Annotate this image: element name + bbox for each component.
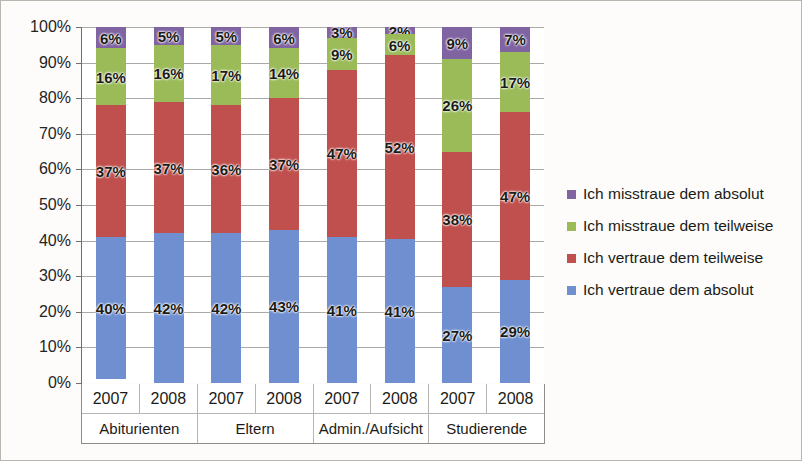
y-axis-tick-mark bbox=[76, 347, 82, 348]
bar-segment-label: 42% bbox=[154, 300, 184, 317]
gridline bbox=[82, 312, 544, 313]
gridline bbox=[82, 347, 544, 348]
bar-segment[interactable]: 37% bbox=[154, 102, 184, 234]
bar-column[interactable]: 2%6%52%41% bbox=[385, 27, 415, 383]
y-axis-tick-label: 70% bbox=[39, 125, 71, 143]
bar-segment[interactable]: 17% bbox=[500, 52, 530, 113]
chart-frame: 100%90%80%70%60%50%40%30%20%10%0% 6%16%3… bbox=[0, 0, 802, 461]
bar-segment[interactable]: 27% bbox=[442, 287, 472, 383]
y-axis-tick-mark bbox=[76, 27, 82, 28]
bar-column[interactable]: 6%16%37%40% bbox=[96, 27, 126, 383]
bar-segment[interactable]: 9% bbox=[442, 27, 472, 59]
bar-segment-label: 9% bbox=[447, 35, 469, 52]
legend-item[interactable]: Ich misstraue dem absolut bbox=[567, 185, 797, 203]
legend-color-swatch bbox=[567, 254, 576, 263]
bar-column[interactable]: 6%14%37%43% bbox=[269, 27, 299, 383]
y-axis-tick-label: 100% bbox=[30, 18, 71, 36]
axis-year-cell: 2007 bbox=[82, 384, 140, 413]
legend-item[interactable]: Ich vertraue dem teilweise bbox=[567, 249, 797, 267]
axis-year-cell: 2007 bbox=[198, 384, 256, 413]
bar-segment[interactable]: 17% bbox=[211, 45, 241, 106]
axis-year-cell: 2007 bbox=[429, 384, 487, 413]
y-axis-tick-mark bbox=[76, 241, 82, 242]
gridline bbox=[82, 205, 544, 206]
bar-segment[interactable]: 37% bbox=[96, 105, 126, 237]
bar-segment[interactable]: 9% bbox=[327, 38, 357, 70]
bar-segment[interactable]: 14% bbox=[269, 48, 299, 98]
bar-segment[interactable]: 43% bbox=[269, 230, 299, 383]
bar-segment[interactable]: 16% bbox=[154, 45, 184, 102]
bar-segment[interactable]: 6% bbox=[96, 27, 126, 48]
bar-column[interactable]: 9%26%38%27% bbox=[442, 27, 472, 383]
bar-segment-label: 14% bbox=[269, 65, 299, 82]
bar-segment-label: 9% bbox=[331, 45, 353, 62]
category-axis-table: 20072008200720082007200820072008 Abituri… bbox=[81, 384, 545, 444]
y-axis-tick-label: 80% bbox=[39, 89, 71, 107]
bar-segment[interactable]: 7% bbox=[500, 27, 530, 52]
bar-segment[interactable]: 42% bbox=[211, 233, 241, 383]
bar-segment-label: 37% bbox=[269, 156, 299, 173]
bar-segment-label: 6% bbox=[100, 29, 122, 46]
axis-group-cell: Abiturienten bbox=[82, 414, 198, 443]
bar-segment-label: 41% bbox=[327, 301, 357, 318]
bar-segment[interactable]: 41% bbox=[327, 237, 357, 383]
gridline bbox=[82, 241, 544, 242]
legend-color-swatch bbox=[567, 222, 576, 231]
axis-year-cell: 2008 bbox=[487, 384, 544, 413]
legend-label: Ich misstraue dem teilweise bbox=[583, 217, 773, 235]
bar-segment[interactable]: 37% bbox=[269, 98, 299, 230]
y-axis-tick-mark bbox=[76, 63, 82, 64]
y-axis-tick-mark bbox=[76, 276, 82, 277]
bar-segment[interactable]: 5% bbox=[211, 27, 241, 45]
bar-segment[interactable]: 36% bbox=[211, 105, 241, 233]
bar-column[interactable]: 7%17%47%29% bbox=[500, 27, 530, 383]
bar-segment[interactable]: 5% bbox=[154, 27, 184, 45]
bar-segment-label: 41% bbox=[385, 302, 415, 319]
bar-segment-label: 5% bbox=[216, 27, 238, 44]
y-axis-tick-mark bbox=[76, 312, 82, 313]
bar-segment-label: 47% bbox=[500, 188, 530, 205]
legend-label: Ich misstraue dem absolut bbox=[583, 185, 764, 203]
bar-segment[interactable]: 52% bbox=[385, 55, 415, 238]
bar-segment-label: 16% bbox=[154, 65, 184, 82]
bar-column[interactable]: 5%17%36%42% bbox=[211, 27, 241, 383]
axis-year-cell: 2008 bbox=[371, 384, 429, 413]
bar-segment[interactable]: 6% bbox=[385, 34, 415, 55]
bar-segment[interactable]: 38% bbox=[442, 152, 472, 287]
bar-segment[interactable]: 42% bbox=[154, 233, 184, 383]
bar-segment[interactable]: 47% bbox=[327, 70, 357, 237]
bar-segment[interactable]: 47% bbox=[500, 112, 530, 279]
gridline bbox=[82, 98, 544, 99]
bar-segment[interactable]: 16% bbox=[96, 48, 126, 105]
bar-segment[interactable]: 2% bbox=[385, 27, 415, 34]
bar-column[interactable]: 5%16%37%42% bbox=[154, 27, 184, 383]
bar-segment[interactable]: 41% bbox=[385, 239, 415, 384]
y-axis-tick-mark bbox=[76, 205, 82, 206]
legend-label: Ich vertraue dem teilweise bbox=[583, 249, 763, 267]
bar-segment-label: 52% bbox=[385, 138, 415, 155]
legend-item[interactable]: Ich vertraue dem absolut bbox=[567, 281, 797, 299]
bar-segment-label: 37% bbox=[96, 163, 126, 180]
bar-segment[interactable]: 26% bbox=[442, 59, 472, 152]
bar-segment-label: 29% bbox=[500, 323, 530, 340]
bar-segment-label: 7% bbox=[504, 31, 526, 48]
y-axis-tick-label: 60% bbox=[39, 160, 71, 178]
gridline bbox=[82, 27, 544, 28]
bar-segment-label: 26% bbox=[442, 97, 472, 114]
legend-item[interactable]: Ich misstraue dem teilweise bbox=[567, 217, 797, 235]
bar-segment[interactable]: 40% bbox=[96, 237, 126, 379]
bar-segment-label: 43% bbox=[269, 298, 299, 315]
y-axis-tick-label: 90% bbox=[39, 54, 71, 72]
bar-segment-label: 6% bbox=[389, 36, 411, 53]
bar-segment-label: 17% bbox=[500, 74, 530, 91]
bar-segment-label: 36% bbox=[211, 161, 241, 178]
bar-column[interactable]: 3%9%47%41% bbox=[327, 27, 357, 383]
bar-segment[interactable]: 29% bbox=[500, 280, 530, 383]
bar-segment[interactable]: 6% bbox=[269, 27, 299, 48]
bar-segment[interactable]: 3% bbox=[327, 27, 357, 38]
category-axis-year-row: 20072008200720082007200820072008 bbox=[82, 384, 544, 414]
gridline bbox=[82, 169, 544, 170]
y-axis-labels: 100%90%80%70%60%50%40%30%20%10%0% bbox=[9, 19, 71, 389]
y-axis-tick-mark bbox=[76, 134, 82, 135]
legend-color-swatch bbox=[567, 286, 576, 295]
